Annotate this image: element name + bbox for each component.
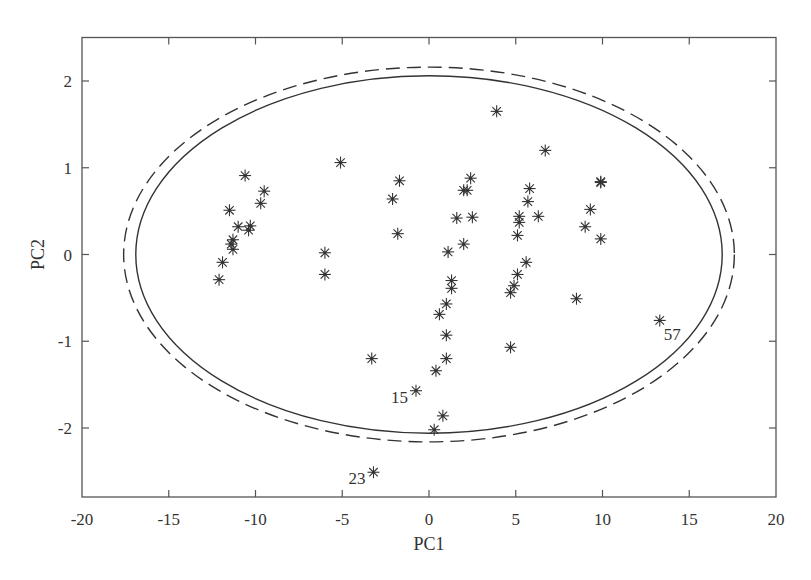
data-point — [213, 274, 225, 286]
data-point — [319, 247, 331, 259]
data-point — [524, 183, 536, 195]
y-tick-label: 1 — [64, 159, 73, 178]
x-tick-label: 15 — [681, 510, 698, 529]
data-points-layer — [213, 105, 666, 478]
data-point — [227, 243, 239, 255]
x-tick-label: -10 — [244, 510, 267, 529]
data-point — [584, 203, 596, 215]
data-point — [458, 238, 470, 250]
x-tick-label: -15 — [157, 510, 180, 529]
data-point — [335, 157, 347, 169]
x-tick-label: -5 — [335, 510, 349, 529]
data-point — [239, 170, 251, 182]
data-point — [505, 341, 517, 353]
data-point — [387, 193, 399, 205]
data-point — [440, 329, 452, 341]
data-point — [465, 172, 477, 184]
ellipses-layer — [124, 67, 735, 442]
y-tick-label: -2 — [58, 419, 72, 438]
data-point — [570, 293, 582, 305]
data-point — [410, 385, 422, 397]
data-point — [392, 228, 404, 240]
data-point — [595, 176, 607, 188]
point-label: 15 — [391, 388, 408, 407]
data-point — [232, 221, 244, 233]
point-label: 23 — [348, 469, 365, 488]
confidence-ellipse-outer — [124, 67, 735, 442]
point-label: 57 — [664, 325, 682, 344]
x-tick-label: 5 — [512, 510, 521, 529]
pca-score-plot: 152357 -20-15-10-505101520 -2-1012 PC1 P… — [0, 0, 811, 580]
data-point — [595, 233, 607, 245]
y-tick-label: 2 — [64, 72, 73, 91]
plot-area-frame — [82, 38, 776, 498]
data-point — [428, 424, 440, 436]
data-point — [433, 308, 445, 320]
data-point — [217, 256, 229, 268]
data-point — [579, 221, 591, 233]
confidence-ellipse-inner — [136, 76, 722, 433]
data-point — [461, 184, 473, 196]
data-point — [511, 268, 523, 280]
data-point — [513, 216, 525, 228]
data-point — [258, 185, 270, 197]
data-point — [394, 175, 406, 187]
x-axis: -20-15-10-505101520 — [71, 38, 785, 530]
x-tick-label: -20 — [71, 510, 94, 529]
data-point — [520, 256, 532, 268]
y-axis-label: PC2 — [28, 239, 48, 270]
data-point — [442, 246, 454, 258]
data-point — [522, 196, 534, 208]
y-tick-label: -1 — [58, 332, 72, 351]
data-point — [440, 353, 452, 365]
data-point — [319, 268, 331, 280]
x-tick-label: 10 — [594, 510, 611, 529]
data-point — [491, 105, 503, 117]
data-point — [539, 144, 551, 156]
y-axis: -2-1012 — [58, 72, 776, 438]
point-labels-layer: 152357 — [348, 325, 681, 488]
x-tick-label: 20 — [768, 510, 785, 529]
data-point — [255, 197, 267, 209]
data-point — [446, 282, 458, 294]
data-point — [367, 466, 379, 478]
data-point — [366, 353, 378, 365]
data-point — [440, 298, 452, 310]
data-point — [532, 210, 544, 222]
data-point — [223, 204, 235, 216]
data-point — [451, 212, 463, 224]
data-point — [511, 229, 523, 241]
y-tick-label: 0 — [64, 246, 73, 265]
data-point — [243, 224, 255, 236]
data-point — [430, 365, 442, 377]
x-tick-label: 0 — [425, 510, 434, 529]
x-axis-label: PC1 — [413, 534, 444, 554]
data-point — [437, 410, 449, 422]
data-point — [505, 287, 517, 299]
data-point — [466, 211, 478, 223]
